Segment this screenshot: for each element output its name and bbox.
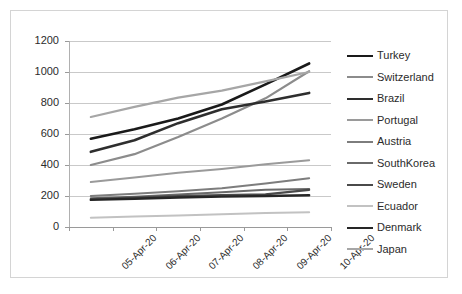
legend-swatch-turkey-icon xyxy=(347,55,373,57)
legend-label: Sweden xyxy=(377,179,417,190)
chart-legend: TurkeySwitzerlandBrazilPortugalAustriaSo… xyxy=(347,45,455,260)
legend-item-sweden[interactable]: Sweden xyxy=(347,174,455,196)
y-axis-label: 1200 xyxy=(15,35,59,46)
y-axis-label: 400 xyxy=(15,159,59,170)
legend-swatch-portugal-icon xyxy=(347,119,373,121)
legend-swatch-sweden-icon xyxy=(347,184,373,186)
plot-area xyxy=(69,41,331,227)
legend-item-ecuador[interactable]: Ecuador xyxy=(347,196,455,218)
legend-label: Ecuador xyxy=(377,201,418,212)
legend-label: Denmark xyxy=(377,222,422,233)
chart-container: 120010008006004002000 05-Apr-2006-Apr-20… xyxy=(10,10,448,278)
series-line-switzerland xyxy=(91,71,309,165)
legend-item-southkorea[interactable]: SouthKorea xyxy=(347,153,455,175)
legend-swatch-denmark-icon xyxy=(347,227,373,229)
legend-label: Japan xyxy=(377,244,407,255)
legend-label: Switzerland xyxy=(377,72,434,83)
legend-item-brazil[interactable]: Brazil xyxy=(347,88,455,110)
legend-item-austria[interactable]: Austria xyxy=(347,131,455,153)
legend-label: Austria xyxy=(377,136,411,147)
series-lines xyxy=(69,41,331,227)
legend-item-japan[interactable]: Japan xyxy=(347,239,455,261)
legend-swatch-brazil-icon xyxy=(347,98,373,100)
x-axis-tick xyxy=(287,227,288,231)
legend-item-denmark[interactable]: Denmark xyxy=(347,217,455,239)
legend-label: Turkey xyxy=(377,50,410,61)
legend-item-switzerland[interactable]: Switzerland xyxy=(347,67,455,89)
legend-swatch-ecuador-icon xyxy=(347,205,373,207)
legend-label: Portugal xyxy=(377,115,418,126)
x-axis-tick xyxy=(244,227,245,231)
legend-label: SouthKorea xyxy=(377,158,435,169)
x-axis-tick xyxy=(156,227,157,231)
y-axis-label: 1000 xyxy=(15,66,59,77)
legend-swatch-switzerland-icon xyxy=(347,76,373,78)
series-line-brazil xyxy=(91,93,309,152)
x-axis-label: 06-Apr-20 xyxy=(164,233,203,272)
legend-swatch-austria-icon xyxy=(347,141,373,143)
y-axis-label: 200 xyxy=(15,190,59,201)
x-axis-label: 09-Apr-20 xyxy=(295,233,334,272)
series-line-ecuador xyxy=(91,212,309,217)
legend-label: Brazil xyxy=(377,93,405,104)
y-axis-label: 600 xyxy=(15,128,59,139)
x-axis-tick xyxy=(113,227,114,231)
legend-swatch-japan-icon xyxy=(347,248,373,250)
y-axis-label: 0 xyxy=(15,221,59,232)
legend-swatch-southkorea-icon xyxy=(347,162,373,164)
x-axis-label: 05-Apr-20 xyxy=(120,233,159,272)
x-axis-tick xyxy=(331,227,332,231)
x-axis-tick xyxy=(200,227,201,231)
legend-item-turkey[interactable]: Turkey xyxy=(347,45,455,67)
y-axis-label: 800 xyxy=(15,97,59,108)
legend-item-portugal[interactable]: Portugal xyxy=(347,110,455,132)
x-axis-label: 07-Apr-20 xyxy=(207,233,246,272)
series-line-portugal xyxy=(91,160,309,182)
x-axis-tick xyxy=(69,227,70,231)
x-axis-label: 08-Apr-20 xyxy=(251,233,290,272)
